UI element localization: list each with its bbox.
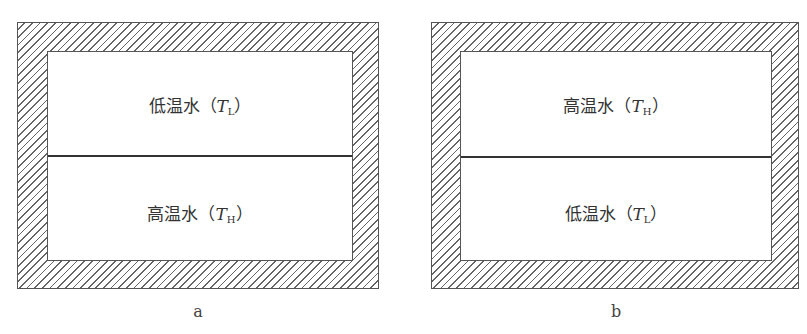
label-close: ） (650, 204, 667, 224)
container-a-top-label: 低温水（TL） (48, 92, 352, 117)
container-b-interior: 高温水（TH） 低温水（TL） (460, 51, 772, 261)
label-close: ） (652, 96, 669, 116)
label-text: 低温水（ (149, 96, 217, 116)
container-a-interior: 低温水（TL） 高温水（TH） (47, 51, 353, 261)
label-text: 高温水（ (147, 204, 215, 224)
label-close: ） (234, 96, 251, 116)
container-a-divider (48, 155, 352, 157)
label-var: T (633, 204, 644, 224)
label-var: T (215, 204, 226, 224)
container-a-insulated-wall: 低温水（TL） 高温水（TH） (17, 22, 379, 289)
container-b-insulated-wall: 高温水（TH） 低温水（TL） (431, 22, 799, 289)
label-text: 低温水（ (565, 204, 633, 224)
caption-a: a (183, 302, 213, 321)
label-var: T (631, 96, 642, 116)
container-b-divider (461, 156, 771, 158)
label-var: T (217, 96, 228, 116)
label-sub: H (643, 106, 652, 117)
container-b-top-label: 高温水（TH） (461, 92, 771, 117)
label-close: ） (236, 204, 253, 224)
caption-b: b (601, 302, 631, 321)
container-b-bottom-label: 低温水（TL） (461, 200, 771, 225)
label-text: 高温水（ (563, 96, 631, 116)
container-a-bottom-label: 高温水（TH） (48, 200, 352, 225)
label-sub: H (227, 214, 236, 225)
